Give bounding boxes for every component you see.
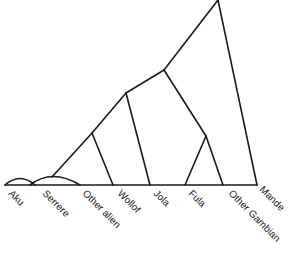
branch-other-gambian — [206, 136, 223, 185]
leaf-label-fula: Fula — [187, 188, 209, 210]
branch-other-alien — [92, 133, 113, 185]
serrere-arc — [30, 177, 80, 186]
leaf-label-jola: Jola — [152, 188, 173, 209]
branch-mande — [218, 0, 257, 185]
branch-spine-upper — [126, 70, 164, 93]
leaf-label-mande: Mande — [258, 184, 288, 214]
branch-fula — [185, 136, 206, 185]
branch-spine-mid — [92, 93, 126, 133]
branch-spine-lower — [52, 133, 92, 177]
branch-jola — [126, 93, 150, 185]
branch-spine-top — [164, 0, 218, 70]
leaf-label-wollof: Wollof — [116, 188, 143, 215]
leaf-label-aku: Aku — [7, 188, 27, 208]
leaf-label-serrere: Serrere — [41, 188, 73, 220]
branch-fula-group — [164, 70, 206, 136]
tree-diagram: Aku Serrere Other alien Wollof Jola Fula… — [0, 0, 294, 261]
